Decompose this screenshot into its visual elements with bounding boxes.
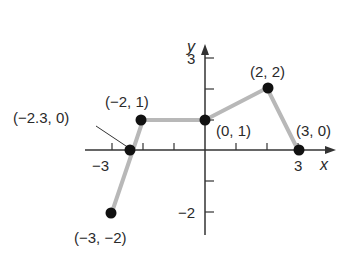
y-ticks bbox=[205, 58, 214, 212]
x-axis-label: x bbox=[319, 156, 329, 173]
tick-label-x-neg3: −3 bbox=[92, 157, 109, 174]
point-label-neg2-1: (−2, 1) bbox=[105, 93, 149, 110]
point-neg2p3-0 bbox=[125, 145, 136, 156]
point-label-2-2: (2, 2) bbox=[250, 63, 285, 80]
point-label-neg2p3-0: (−2.3, 0) bbox=[13, 109, 69, 126]
point-label-3-0: (3, 0) bbox=[296, 122, 331, 139]
tick-label-x-3: 3 bbox=[294, 157, 302, 174]
point-0-1 bbox=[200, 115, 211, 126]
y-axis-arrow-icon bbox=[201, 44, 209, 55]
point-neg3-neg2 bbox=[106, 208, 117, 219]
tick-label-y-3: 3 bbox=[187, 50, 195, 67]
point-label-0-1: (0, 1) bbox=[216, 122, 251, 139]
point-3-0 bbox=[294, 145, 305, 156]
point-neg2-1 bbox=[136, 115, 147, 126]
point-2-2 bbox=[263, 83, 274, 94]
function-graph: y x 3 −2 −3 3 (−3, −2) (−2.3, 0) (−2, 1)… bbox=[0, 0, 358, 275]
point-label-neg3-neg2: (−3, −2) bbox=[74, 229, 127, 246]
tick-label-y-neg2: −2 bbox=[178, 204, 195, 221]
x-axis-arrow-icon bbox=[325, 146, 336, 154]
